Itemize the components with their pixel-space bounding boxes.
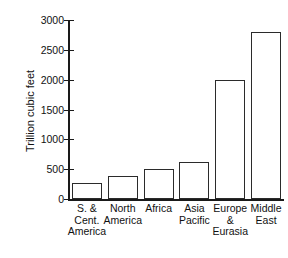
gas-reserves-bar-chart: Trillion cubic feet 30002500200015001000…: [0, 0, 288, 258]
y-axis-tick: [64, 110, 74, 111]
y-axis-tick-label: 2500: [41, 45, 64, 55]
bar: [179, 162, 209, 199]
y-axis-tick-label: 3000: [41, 15, 64, 25]
x-axis-label: North America: [103, 203, 143, 226]
bar: [144, 169, 174, 199]
x-axis-label: Europe & Eurasia: [210, 203, 250, 238]
x-axis-label: Africa: [139, 203, 179, 215]
y-axis-tick-label: 1000: [41, 134, 64, 144]
y-axis-tick: [64, 20, 74, 21]
bar: [108, 176, 138, 199]
x-axis-label: Asia Pacific: [175, 203, 215, 226]
bar: [72, 183, 102, 199]
y-axis-tick: [64, 199, 74, 200]
y-axis-tick: [64, 169, 74, 170]
y-axis-tick-label: 0: [58, 194, 64, 204]
bar: [251, 32, 281, 199]
y-axis-tick-label: 500: [46, 164, 64, 174]
y-axis-tick: [64, 50, 74, 51]
y-axis-line: [68, 20, 70, 201]
x-axis-line: [68, 199, 284, 201]
y-axis-tick: [64, 139, 74, 140]
y-axis-tick: [64, 80, 74, 81]
bar: [215, 80, 245, 199]
x-axis-label: S. & Cent. America: [67, 203, 107, 238]
y-axis-tick-label: 1500: [41, 105, 64, 115]
x-axis-label: Middle East: [246, 203, 286, 226]
y-axis-title: Trillion cubic feet: [24, 41, 36, 181]
y-axis-tick-label: 2000: [41, 75, 64, 85]
